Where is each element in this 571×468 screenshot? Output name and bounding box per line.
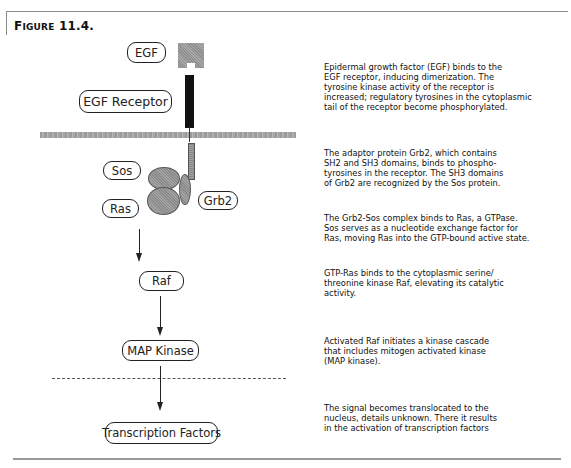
description-nuclear-translocation: The signal becomes translocated to the n… bbox=[324, 403, 569, 433]
desc-line: of Grb2 are recognized by the Sos protei… bbox=[324, 178, 569, 188]
arrow-to-raf-head bbox=[136, 253, 142, 262]
node-egf: EGF bbox=[127, 42, 166, 63]
desc-line: tail of the receptor become phosphorylat… bbox=[324, 102, 569, 112]
description-map-kinase-cascade: Activated Raf initiates a kinase cascade… bbox=[324, 336, 569, 366]
description-raf-activation: GTP-Ras binds to the cytoplasmic serine/… bbox=[324, 268, 569, 298]
node-map-kinase: MAP Kinase bbox=[122, 340, 199, 361]
left-tick bbox=[6, 11, 7, 35]
arrow-to-raf-line bbox=[139, 229, 140, 254]
desc-line: Epidermal growth factor (EGF) binds to t… bbox=[324, 62, 569, 72]
node-raf: Raf bbox=[139, 271, 184, 291]
desc-line: Ras, moving Ras into the GTP-bound activ… bbox=[324, 233, 569, 243]
desc-line: EGF receptor, inducing dimerization. The bbox=[324, 72, 569, 82]
top-rule bbox=[6, 11, 568, 12]
figure-title: FIGURE 11.4. bbox=[14, 19, 94, 33]
arrow-to-map-kinase-head bbox=[157, 327, 163, 336]
arrow-to-transcription-factors-head bbox=[157, 402, 163, 411]
desc-line: Activated Raf initiates a kinase cascade bbox=[324, 336, 569, 346]
node-sos: Sos bbox=[103, 161, 141, 180]
desc-line: activity. bbox=[324, 288, 569, 298]
desc-line: increased; regulatory tyrosines in the c… bbox=[324, 92, 569, 102]
node-egf-receptor: EGF Receptor bbox=[79, 90, 172, 113]
egf-ligand-notch bbox=[187, 63, 195, 69]
receptor-transmembrane-stem bbox=[189, 127, 190, 142]
description-egf-binding: Epidermal growth factor (EGF) binds to t… bbox=[324, 62, 569, 112]
desc-line: tyrosines in the receptor. The SH3 domai… bbox=[324, 168, 569, 178]
desc-line: (MAP kinase). bbox=[324, 356, 569, 366]
node-ras: Ras bbox=[102, 199, 139, 218]
node-transcription-factors: Transcription Factors bbox=[105, 422, 218, 444]
node-grb2: Grb2 bbox=[198, 191, 238, 210]
bottom-rule bbox=[13, 458, 561, 460]
desc-line: GTP-Ras binds to the cytoplasmic serine/ bbox=[324, 268, 569, 278]
desc-line: The Grb2-Sos complex binds to Ras, a GTP… bbox=[324, 213, 569, 223]
desc-line: in the activation of transcription facto… bbox=[324, 423, 569, 433]
desc-line: tyrosine kinase activity of the receptor… bbox=[324, 82, 569, 92]
ras-protein-shape bbox=[147, 187, 180, 215]
desc-line: that includes mitogen activated kinase bbox=[324, 346, 569, 356]
description-grb2-sos-ras: The Grb2-Sos complex binds to Ras, a GTP… bbox=[324, 213, 569, 243]
cell-membrane bbox=[40, 132, 296, 138]
description-grb2-adaptor: The adaptor protein Grb2, which contains… bbox=[324, 148, 569, 188]
desc-line: threonine kinase Raf, elevating its cata… bbox=[324, 278, 569, 288]
grb2-protein-shape bbox=[179, 174, 191, 205]
desc-line: The signal becomes translocated to the bbox=[324, 403, 569, 413]
arrow-to-transcription-factors-line bbox=[160, 366, 161, 403]
nuclear-envelope-dashed-line bbox=[52, 378, 286, 379]
desc-line: SH2 and SH3 domains, binds to phospho- bbox=[324, 158, 569, 168]
desc-line: The adaptor protein Grb2, which contains bbox=[324, 148, 569, 158]
egf-receptor-bar bbox=[185, 75, 194, 128]
desc-line: nucleus, details unknown. There it resul… bbox=[324, 413, 569, 423]
desc-line: Sos serves as a nucleotide exchange fact… bbox=[324, 223, 569, 233]
arrow-to-map-kinase-line bbox=[160, 296, 161, 328]
receptor-cytoplasmic-tail bbox=[188, 143, 195, 180]
